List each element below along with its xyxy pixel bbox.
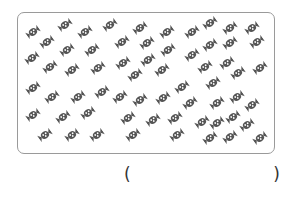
- answer-blank[interactable]: [140, 166, 264, 186]
- open-parenthesis: (: [124, 164, 131, 184]
- candy-box: [17, 12, 275, 154]
- close-parenthesis: ): [273, 164, 280, 184]
- answer-area: ( ): [120, 164, 286, 186]
